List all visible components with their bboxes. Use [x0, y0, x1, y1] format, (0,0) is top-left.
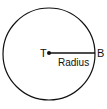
center-point-dot — [47, 51, 51, 55]
edge-point-label: B — [97, 47, 104, 59]
circle-diagram: T B Radius — [0, 0, 107, 109]
center-point-label: T — [40, 47, 47, 59]
radius-label: Radius — [58, 57, 89, 68]
